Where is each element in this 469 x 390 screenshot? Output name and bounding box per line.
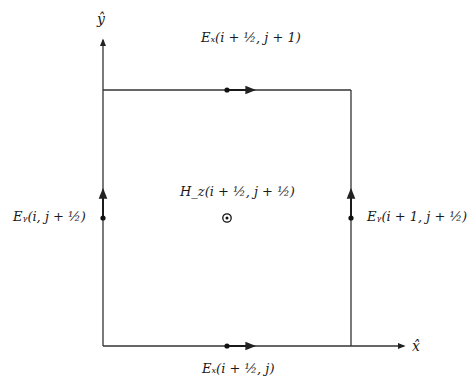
hz-center-label: H_z(i + ½, j + ½) [180, 185, 295, 198]
x-axis-label: x̂ [412, 339, 420, 353]
y-axis-label: ŷ [97, 12, 105, 26]
ex-top-label: Eₓ(i + ½, j + 1) [201, 31, 301, 44]
ex-bottom-label: Eₓ(i + ½, j) [202, 362, 274, 375]
hz-center-dot [226, 217, 229, 220]
ey-left-label: Eᵧ(i, j + ½) [13, 210, 86, 223]
ey-right-label: Eᵧ(i + 1, j + ½) [367, 210, 467, 223]
